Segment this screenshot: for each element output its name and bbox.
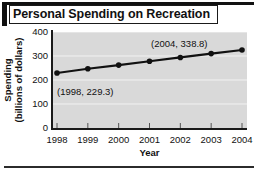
x-axis-tick-label: 1999 <box>73 134 103 146</box>
annotation-first-point: (1998, 229.3) <box>57 86 114 97</box>
page-title: Personal Spending on Recreation <box>13 6 218 23</box>
y-axis-line <box>51 30 53 130</box>
data-point <box>116 62 122 68</box>
x-axis-tick-label: 2001 <box>135 134 165 146</box>
x-axis-tick-label: 2002 <box>165 134 195 146</box>
y-axis-tick-label: 300 <box>24 51 48 61</box>
x-axis-title: Year <box>52 147 247 158</box>
x-axis-line <box>51 128 247 130</box>
x-axis-tick-labels: 1998199920002001200220032004 <box>52 134 251 148</box>
y-axis-title-line1: Spending <box>2 32 13 128</box>
plot-svg <box>52 32 247 128</box>
data-point <box>208 51 214 57</box>
title-left-accent-bar <box>2 2 7 26</box>
data-point <box>147 58 153 64</box>
data-point <box>239 47 245 53</box>
data-point <box>85 66 91 72</box>
y-axis-tick-label: 400 <box>24 27 48 37</box>
x-axis-tick-label: 1998 <box>42 134 72 146</box>
plot-area <box>52 32 247 128</box>
y-axis-tick-labels: 4003002001000 <box>22 28 48 132</box>
annotation-last-point: (2004, 338.8) <box>151 38 208 49</box>
gridlines <box>52 32 247 128</box>
y-axis-tick-label: 100 <box>24 99 48 109</box>
y-axis-tick-label: 200 <box>24 75 48 85</box>
data-point <box>54 70 60 76</box>
data-point <box>178 55 184 61</box>
y-axis-tick-label: 0 <box>24 123 48 133</box>
x-axis-tick-label: 2004 <box>227 134 257 146</box>
chart-title-bar: Personal Spending on Recreation <box>0 0 257 28</box>
x-axis-tick-label: 2000 <box>104 134 134 146</box>
bottom-rule <box>4 166 254 168</box>
chart-container: Spending (billions of dollars) 400300200… <box>0 28 257 160</box>
data-points <box>54 47 245 76</box>
x-axis-tick-label: 2003 <box>196 134 226 146</box>
